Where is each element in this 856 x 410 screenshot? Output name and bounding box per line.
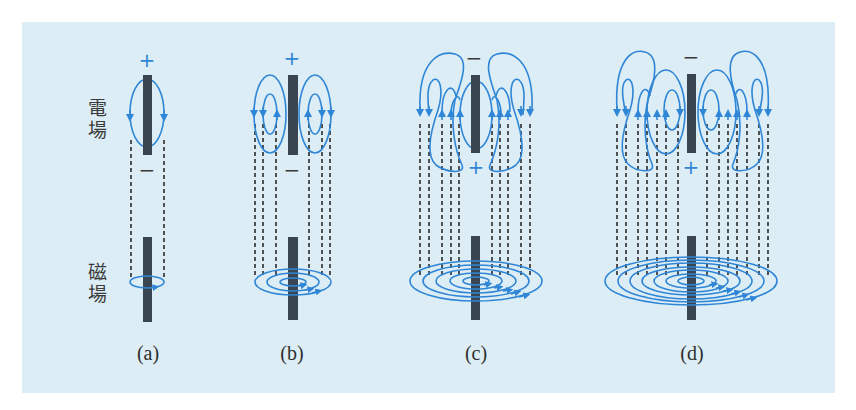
panel-b-top-charge: + [284, 48, 301, 68]
antenna-top [471, 75, 480, 153]
caption-d: (d) [680, 342, 703, 365]
antenna-bottom [143, 237, 152, 322]
electric-field-label-char2: 場 [86, 119, 108, 141]
magnetic-field-label-char2: 場 [86, 283, 108, 305]
antenna-top [143, 75, 152, 155]
antenna-top [687, 74, 696, 153]
panel-b-bottom-charge: − [284, 160, 301, 180]
panel-a-bottom-charge: − [139, 160, 156, 180]
antenna-bottom [687, 236, 696, 320]
magnetic-field-label-char1: 磁 [86, 261, 108, 283]
panel-b [254, 75, 331, 320]
caption-b: (b) [280, 342, 303, 365]
panel-c-bottom-charge: + [468, 157, 485, 177]
caption-c: (c) [465, 342, 487, 365]
electric-field-label-char1: 電 [86, 97, 108, 119]
panel-d-top-charge: − [683, 47, 700, 67]
panel-c-top-charge: − [466, 48, 483, 68]
panel-d [605, 51, 777, 320]
antenna-bottom [471, 236, 480, 320]
panel-d-bottom-charge: + [683, 157, 700, 177]
panel-a [130, 75, 164, 322]
panel-c [410, 53, 542, 320]
caption-a: (a) [137, 342, 159, 365]
panel-a-top-charge: + [139, 50, 156, 70]
dipole-radiation-diagram [0, 0, 856, 410]
electric-field-label: 電 場 [86, 97, 108, 141]
antenna-top [288, 75, 298, 155]
magnetic-field-label: 磁 場 [86, 261, 108, 305]
